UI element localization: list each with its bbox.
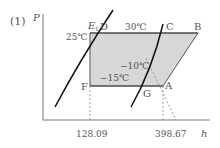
temp-minus15: −15℃ bbox=[100, 73, 129, 83]
label-f: F bbox=[81, 81, 88, 92]
temp-30: 30℃ bbox=[125, 22, 147, 32]
label-a: A bbox=[164, 80, 173, 91]
ph-diagram: (1) P h E 1 D C B F G A 25℃ 30℃ −10℃ −15… bbox=[0, 0, 220, 148]
temp-minus10: −10℃ bbox=[120, 61, 149, 71]
label-b: B bbox=[194, 21, 201, 32]
label-e1-subscript: 1 bbox=[95, 25, 99, 32]
label-g: G bbox=[143, 88, 151, 99]
label-c: C bbox=[166, 21, 174, 32]
y-axis-label: P bbox=[32, 12, 40, 23]
x-axis-label: h bbox=[201, 128, 207, 139]
tick-h-398: 398.67 bbox=[155, 129, 187, 139]
problem-number: (1) bbox=[10, 15, 26, 28]
temp-25: 25℃ bbox=[66, 32, 88, 42]
tick-h-128: 128.09 bbox=[76, 129, 108, 139]
label-d: D bbox=[100, 21, 108, 32]
